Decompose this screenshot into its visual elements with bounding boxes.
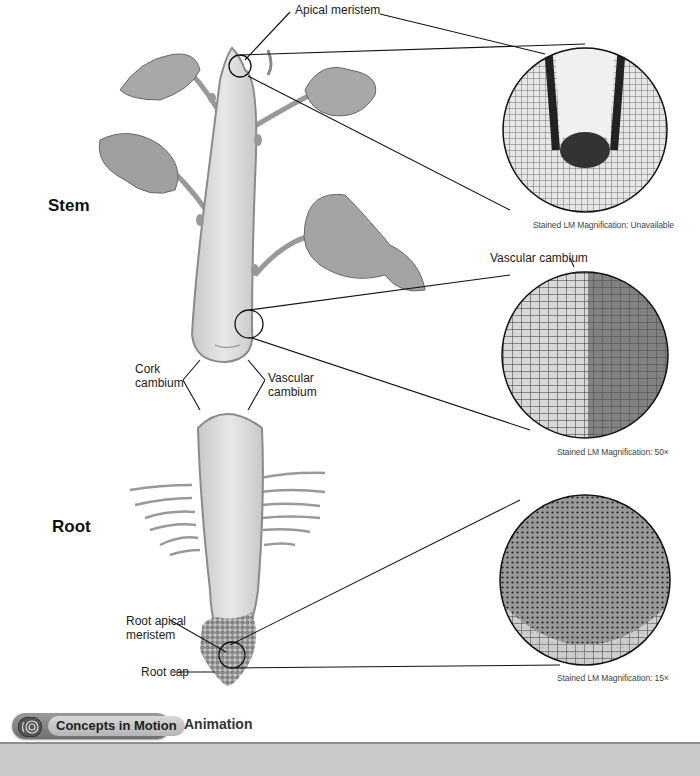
root-illustration <box>130 414 325 686</box>
footer-bar <box>0 742 700 776</box>
micrograph-caption-3: Stained LM Magnification: 15× <box>557 673 669 683</box>
micrograph-apical-meristem <box>500 45 670 215</box>
root-section-label: Root <box>52 517 91 537</box>
concepts-in-motion-button[interactable]: Concepts in Motion <box>12 713 170 739</box>
micrograph-root-apical-meristem <box>498 493 673 670</box>
stem-section-label: Stem <box>48 196 90 216</box>
concepts-in-motion-label: Concepts in Motion <box>48 716 185 736</box>
apical-meristem-label: Apical meristem <box>295 3 380 17</box>
vascular-cambium-micrograph-label: Vascular cambium <box>490 251 588 265</box>
animation-link[interactable]: Animation <box>184 716 252 732</box>
cork-cambium-label: Cork cambium <box>135 362 184 390</box>
micrograph-caption-1: Stained LM Magnification: Unavailable <box>533 220 674 230</box>
root-cap-label: Root cap <box>141 665 189 679</box>
vascular-cambium-label: Vascular cambium <box>268 371 317 399</box>
micrograph-caption-2: Stained LM Magnification: 50× <box>557 447 669 457</box>
concentric-circles-icon <box>18 717 42 737</box>
stem-illustration <box>99 48 425 362</box>
root-apical-meristem-label: Root apical meristem <box>126 614 186 642</box>
micrograph-vascular-cambium <box>500 270 673 440</box>
